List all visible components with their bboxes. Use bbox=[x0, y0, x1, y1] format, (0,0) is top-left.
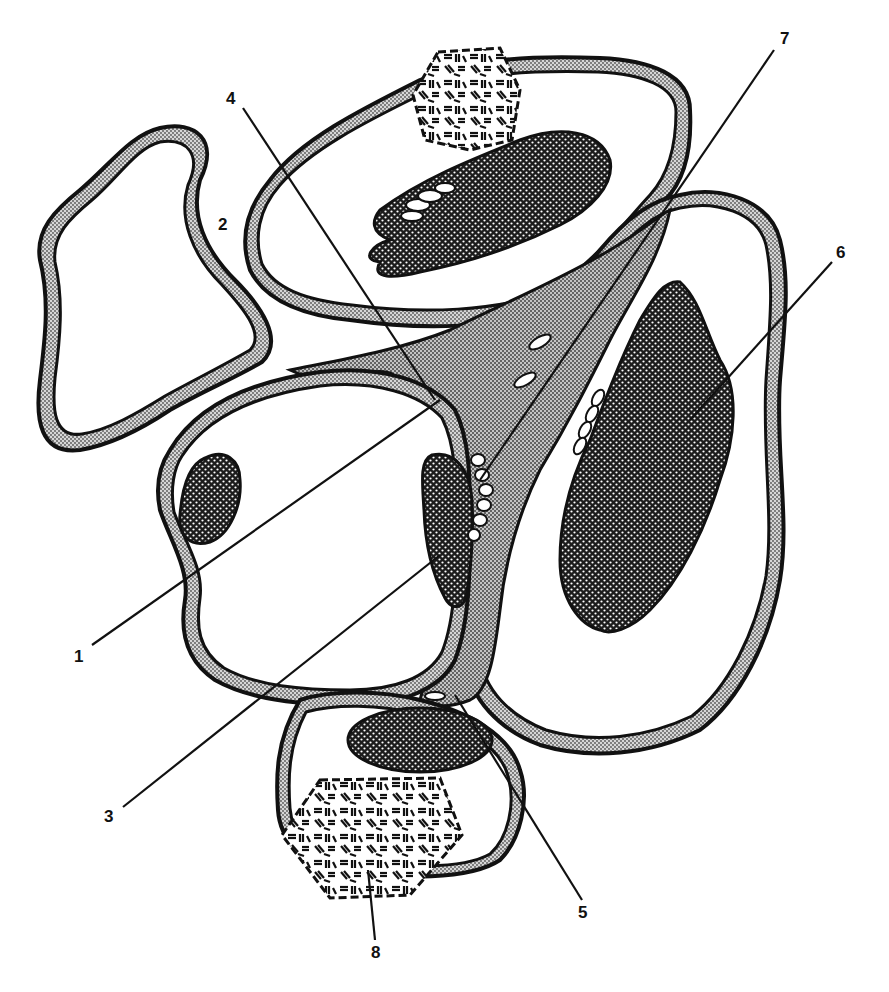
label-5: 5 bbox=[578, 903, 587, 922]
label-8: 8 bbox=[371, 943, 380, 962]
cell-middle bbox=[158, 370, 493, 705]
granule-cluster-top bbox=[413, 48, 520, 150]
label-6: 6 bbox=[836, 243, 845, 262]
label-7: 7 bbox=[780, 29, 789, 48]
label-2: 2 bbox=[218, 215, 227, 234]
label-4: 4 bbox=[226, 89, 236, 108]
granule-cluster-bottom bbox=[282, 778, 462, 898]
figure-caption bbox=[0, 982, 889, 992]
label-3: 3 bbox=[104, 807, 113, 826]
cell-diagram: 1 2 3 4 5 6 7 8 bbox=[0, 0, 889, 992]
nucleus-bottom bbox=[348, 708, 492, 772]
label-1: 1 bbox=[74, 647, 83, 666]
